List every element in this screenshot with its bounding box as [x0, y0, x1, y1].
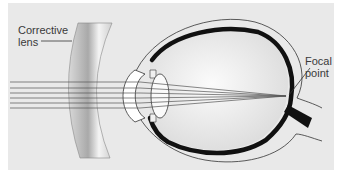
corrective-lens-label: Corrective lens: [18, 24, 68, 48]
optic-nerve: [284, 105, 312, 128]
focal-point-label: Focal point: [305, 55, 332, 79]
corrective-lens-label-line1: Corrective: [18, 24, 68, 36]
corrective-lens: [68, 23, 112, 158]
focal-point-label-line2: point: [305, 67, 332, 79]
cornea: [123, 70, 145, 122]
focal-point-label-line1: Focal: [305, 55, 332, 67]
crystalline-lens: [151, 74, 169, 118]
corrective-lens-label-line2: lens: [18, 36, 68, 48]
